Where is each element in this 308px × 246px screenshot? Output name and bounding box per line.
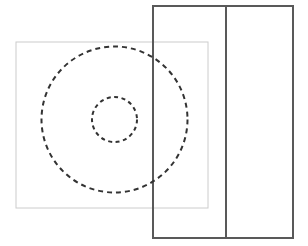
drawing-canvas (0, 0, 308, 246)
figure-svg (0, 0, 308, 246)
outer-dashed-circle (42, 47, 188, 193)
inner-dashed-circle (92, 97, 137, 142)
outer-rectangle (153, 6, 293, 238)
light-square (16, 42, 208, 208)
